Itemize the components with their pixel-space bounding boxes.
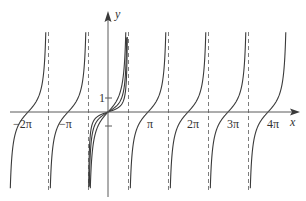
tangent-branch — [210, 32, 245, 188]
y-axis-label: y — [114, 7, 121, 21]
x-tick-label-negpi: −π — [59, 117, 72, 131]
x-tick-label-4pi: 4π — [267, 117, 279, 131]
y-tick-label-1: 1 — [99, 91, 105, 105]
tangent-branch — [50, 32, 85, 188]
x-tick-label-3pi: 3π — [227, 117, 239, 131]
tangent-branch — [250, 32, 285, 188]
x-axis-label: x — [289, 115, 296, 129]
tangent-branch — [130, 32, 165, 188]
x-tick-label-neg2pi: −2π — [13, 117, 32, 131]
tangent-branch — [170, 32, 205, 188]
x-tick-label-pi: π — [147, 117, 153, 131]
tangent-branch — [10, 32, 45, 188]
tangent-graph: x y 1 −2π −π π 2π 3π 4π — [0, 0, 306, 201]
x-tick-label-2pi: 2π — [187, 117, 199, 131]
curve-branches — [10, 32, 285, 188]
